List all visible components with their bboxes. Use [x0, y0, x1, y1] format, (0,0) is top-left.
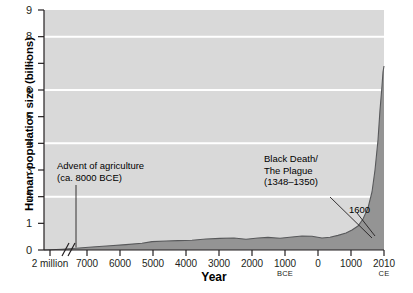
y-tick-label-1: 1: [6, 218, 32, 229]
annotation-black-death: Black Death/ The Plague (1348–1350): [264, 153, 318, 188]
y-tick-label-0: 0: [6, 245, 32, 256]
y-tick-label-6: 6: [6, 85, 32, 96]
x-tick-label-1000ce-text: 1000: [340, 258, 362, 269]
plot-background: [44, 10, 384, 250]
y-tick-label-3: 3: [6, 165, 32, 176]
y-tick-label-2: 2: [6, 191, 32, 202]
population-chart: Human population size (billions) Year 9 …: [0, 0, 413, 293]
annotation-advent-of-agriculture: Advent of agriculture (ca. 8000 BCE): [57, 160, 144, 183]
x-axis-ticks: [50, 250, 384, 256]
x-axis-title: Year: [44, 270, 384, 284]
y-tick-label-9: 9: [6, 5, 32, 16]
x-tick-label-2million-text: 2 million: [32, 258, 69, 269]
annotation-black-death-line-2: The Plague: [264, 165, 318, 177]
x-tick-label-2000-text: 2000: [241, 258, 263, 269]
y-tick-label-4: 4: [6, 138, 32, 149]
y-tick-label-7: 7: [6, 58, 32, 69]
annotation-black-death-line-1: Black Death/: [264, 153, 318, 165]
x-tick-label-7000-text: 7000: [76, 258, 98, 269]
y-axis-ticks: [38, 10, 44, 250]
chart-svg: [0, 0, 413, 293]
x-tick-label-4000-text: 4000: [175, 258, 197, 269]
annotation-black-death-line-3: (1348–1350): [264, 176, 318, 188]
x-tick-label-2010ce: 2010 CE: [364, 259, 404, 277]
x-tick-label-1000bce-text: 1000: [274, 258, 296, 269]
x-tick-label-3000-text: 3000: [208, 258, 230, 269]
annotation-year-1600: 1600: [349, 204, 370, 215]
annotation-advent-line-1: Advent of agriculture: [57, 160, 144, 172]
x-tick-sublabel-ce: CE: [364, 270, 404, 278]
x-tick-label-0-text: 0: [315, 258, 321, 269]
y-tick-label-8: 8: [6, 31, 32, 42]
annotation-advent-line-2: (ca. 8000 BCE): [57, 172, 144, 184]
x-tick-label-5000-text: 5000: [142, 258, 164, 269]
x-tick-label-2010ce-text: 2010: [373, 258, 395, 269]
x-tick-sublabel-bce: BCE: [265, 270, 305, 278]
y-tick-label-5: 5: [6, 111, 32, 122]
x-tick-label-6000-text: 6000: [109, 258, 131, 269]
